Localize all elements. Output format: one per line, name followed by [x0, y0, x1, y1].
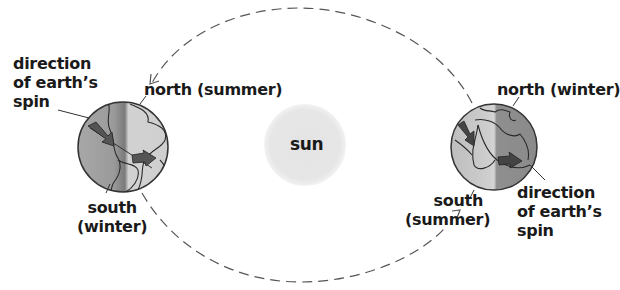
left-spin-label-line1: direction	[13, 54, 98, 73]
left-earth	[78, 102, 168, 200]
sun-label: sun	[290, 135, 323, 154]
left-spin-pointer	[58, 110, 89, 118]
left-south-label: south (winter)	[77, 198, 147, 236]
right-north-label: north (winter)	[497, 80, 620, 99]
right-south-label-line1: south	[405, 191, 483, 210]
right-spin-label-line1: direction	[517, 183, 602, 202]
right-spin-label: direction of earth’s spin	[517, 183, 602, 240]
left-spin-label-line3: spin	[13, 92, 98, 111]
left-spin-label-line2: of earth’s	[13, 73, 98, 92]
right-south-label-line2: (summer)	[405, 210, 483, 229]
left-south-label-line2: (winter)	[77, 217, 147, 236]
orbit-path-bottom	[142, 193, 445, 282]
left-south-label-line1: south	[77, 198, 147, 217]
right-spin-label-line2: of earth’s	[517, 202, 602, 221]
right-earth	[451, 104, 545, 190]
left-north-label: north (summer)	[144, 80, 282, 99]
right-spin-label-line3: spin	[517, 221, 602, 240]
right-south-label: south (summer)	[405, 191, 483, 229]
left-spin-label: direction of earth’s spin	[13, 54, 98, 111]
